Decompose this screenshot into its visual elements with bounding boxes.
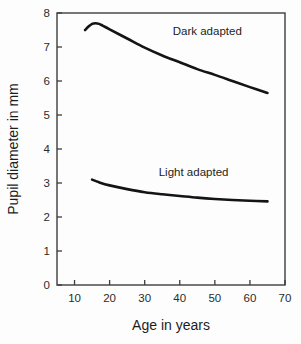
- series-label-dark-adapted: Dark adapted: [173, 25, 242, 37]
- series-label-light-adapted: Light adapted: [159, 166, 229, 178]
- y-tick-label: 3: [44, 177, 50, 189]
- y-axis-tick-labels: 012345678: [44, 7, 51, 291]
- y-tick-label: 5: [44, 109, 50, 121]
- x-axis-title: Age in years: [132, 317, 210, 333]
- x-tick-label: 30: [138, 292, 151, 304]
- plot-border: [57, 13, 285, 285]
- plot-frame: [57, 13, 285, 285]
- y-axis-title: Pupil diameter in mm: [5, 83, 21, 215]
- x-tick-label: 40: [173, 292, 186, 304]
- y-axis-ticks: [57, 13, 62, 285]
- y-tick-label: 0: [44, 279, 50, 291]
- y-tick-label: 7: [44, 41, 50, 53]
- y-tick-label: 2: [44, 211, 50, 223]
- series-annotations: Dark adaptedLight adapted: [159, 25, 242, 178]
- series-line-light-adapted: [92, 180, 267, 202]
- x-tick-label: 20: [103, 292, 116, 304]
- x-tick-label: 70: [279, 292, 292, 304]
- pupil-diameter-line-chart: 012345678 10203040506070 Dark adaptedLig…: [0, 0, 301, 344]
- chart-figure: 012345678 10203040506070 Dark adaptedLig…: [0, 0, 301, 344]
- y-tick-label: 8: [44, 7, 50, 19]
- y-tick-label: 4: [44, 143, 51, 155]
- x-axis-tick-labels: 10203040506070: [68, 292, 291, 304]
- x-tick-label: 60: [244, 292, 257, 304]
- x-axis-ticks: [75, 280, 285, 285]
- x-tick-label: 10: [68, 292, 81, 304]
- x-tick-label: 50: [208, 292, 221, 304]
- y-tick-label: 6: [44, 75, 50, 87]
- y-tick-label: 1: [44, 245, 50, 257]
